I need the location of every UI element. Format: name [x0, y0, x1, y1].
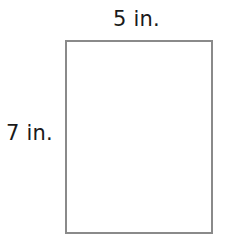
width-label: 5 in. [113, 9, 160, 30]
rectangle-shape [65, 40, 213, 234]
height-label: 7 in. [6, 123, 53, 144]
